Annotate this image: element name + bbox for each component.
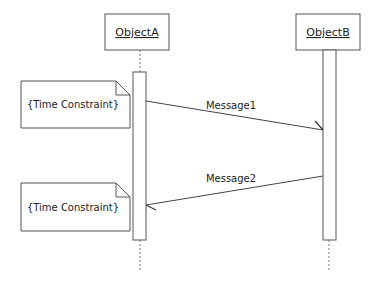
object-b-label: ObjectB (306, 26, 349, 39)
message-2-label: Message2 (206, 173, 256, 184)
object-b-activation[interactable] (323, 50, 336, 240)
object-a-activation[interactable] (133, 72, 146, 240)
message-2[interactable]: Message2 (146, 173, 323, 210)
message-1[interactable]: Message1 (146, 100, 323, 130)
time-constraint-note-1[interactable]: {Time Constraint} (21, 81, 130, 142)
message-2-arrowhead-icon (146, 205, 156, 210)
object-a-label: ObjectA (115, 26, 159, 39)
note-1-label: {Time Constraint} (27, 99, 119, 110)
object-b[interactable]: ObjectB (296, 14, 360, 50)
sequence-diagram: ObjectA ObjectB {Time Constraint} {Time … (0, 0, 381, 284)
object-a[interactable]: ObjectA (105, 14, 169, 50)
message-1-label: Message1 (206, 100, 256, 111)
note-2-label: {Time Constraint} (27, 202, 119, 213)
time-constraint-note-2[interactable]: {Time Constraint} (21, 183, 130, 231)
